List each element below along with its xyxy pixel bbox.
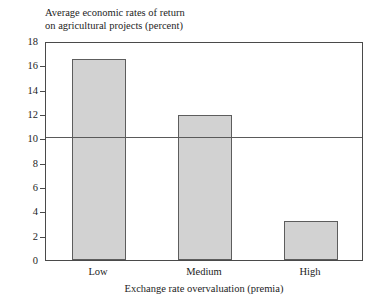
y-axis-label-14: 14 xyxy=(10,86,38,96)
y-axis-label-10: 10 xyxy=(10,134,38,144)
y-axis: 024681012141618 xyxy=(0,0,38,304)
bar-low xyxy=(72,59,126,260)
y-axis-label-0: 0 xyxy=(10,256,38,266)
x-axis-label-high: High xyxy=(257,266,363,278)
reference-line-10 xyxy=(46,137,362,138)
chart-title-line-2: on agricultural projects (percent) xyxy=(45,20,183,31)
y-axis-label-6: 6 xyxy=(10,183,38,193)
x-axis-label-medium: Medium xyxy=(151,266,257,278)
y-axis-label-16: 16 xyxy=(10,61,38,71)
bar-chart-figure: Average economic rates of return on agri… xyxy=(0,0,382,304)
chart-title-line-1: Average economic rates of return xyxy=(45,7,185,18)
y-axis-label-18: 18 xyxy=(10,37,38,47)
y-axis-tick-10 xyxy=(40,139,45,140)
y-axis-label-8: 8 xyxy=(10,159,38,169)
y-axis-tick-4 xyxy=(40,212,45,213)
y-axis-tick-14 xyxy=(40,91,45,92)
y-axis-label-4: 4 xyxy=(10,207,38,217)
y-axis-tick-16 xyxy=(40,66,45,67)
x-axis-label-low: Low xyxy=(45,266,151,278)
plot-area xyxy=(45,42,363,261)
y-axis-tick-6 xyxy=(40,188,45,189)
y-axis-tick-8 xyxy=(40,164,45,165)
y-axis-tick-2 xyxy=(40,237,45,238)
y-axis-tick-12 xyxy=(40,115,45,116)
x-axis-title: Exchange rate overvaluation (premia) xyxy=(45,283,363,295)
chart-title: Average economic rates of return on agri… xyxy=(45,6,345,32)
y-axis-label-12: 12 xyxy=(10,110,38,120)
y-axis-label-2: 2 xyxy=(10,232,38,242)
bar-high xyxy=(284,221,338,260)
